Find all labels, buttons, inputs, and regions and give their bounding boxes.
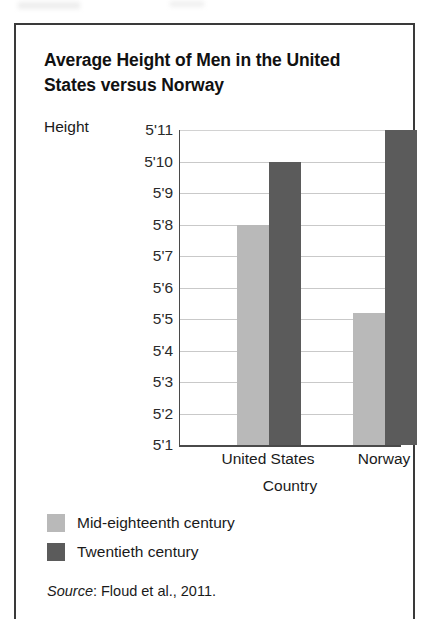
y-axis-title: Height — [44, 118, 89, 136]
legend-swatch-icon-light — [47, 514, 65, 532]
x-axis-title: Country — [179, 477, 401, 495]
legend-label-mid-eighteenth-century: Mid-eighteenth century — [77, 514, 235, 532]
y-axis-tick-label: 5'4 — [109, 342, 173, 360]
scan-artifact-right — [170, 1, 204, 7]
bar-united-states-series-2 — [269, 162, 301, 446]
figure-container: Average Height of Men in the United Stat… — [14, 23, 415, 619]
bar-united-states-series-1 — [237, 225, 269, 446]
legend-item-twentieth-century: Twentieth century — [47, 537, 235, 566]
y-axis-tick-label: 5'11 — [109, 121, 173, 139]
bar-norway-series-1 — [353, 313, 385, 445]
legend-item-mid-eighteenth-century: Mid-eighteenth century — [47, 508, 235, 537]
source-note-text: : Floud et al., 2011. — [93, 583, 216, 599]
y-axis-tick-label: 5'6 — [109, 279, 173, 297]
source-note-label: Source — [47, 583, 93, 599]
y-axis-tick-labels: 5'115'105'95'85'75'65'55'45'35'25'1 — [103, 130, 173, 445]
legend-swatch-icon-dark — [47, 543, 65, 561]
y-axis-tick-label: 5'5 — [109, 310, 173, 328]
y-axis-tick-label: 5'3 — [109, 373, 173, 391]
source-note: Source: Floud et al., 2011. — [47, 583, 216, 599]
legend: Mid-eighteenth century Twentieth century — [47, 508, 235, 566]
gridline — [180, 130, 398, 131]
x-axis-line — [179, 445, 401, 447]
x-axis-tick-label: Norway — [314, 450, 435, 468]
scan-artifact-left — [18, 2, 80, 9]
y-axis-tick-label: 5'10 — [109, 153, 173, 171]
y-axis-tick-label: 5'7 — [109, 247, 173, 265]
bar-norway-series-2 — [385, 130, 417, 445]
y-axis-tick-label: 5'1 — [109, 436, 173, 454]
plot-area — [179, 130, 397, 445]
y-axis-tick-label: 5'2 — [109, 405, 173, 423]
legend-label-twentieth-century: Twentieth century — [77, 543, 198, 561]
y-axis-tick-label: 5'8 — [109, 216, 173, 234]
y-axis-tick-label: 5'9 — [109, 184, 173, 202]
